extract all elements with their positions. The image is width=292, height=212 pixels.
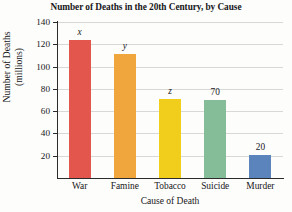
y-tick-mark xyxy=(53,156,58,157)
x-axis-title: Cause of Death xyxy=(57,196,283,206)
y-tick-label: 140 xyxy=(24,17,50,27)
y-axis-tick-labels: 14012010080604020 xyxy=(22,0,50,212)
x-tick-label-murder: Murder xyxy=(229,181,291,191)
y-tick-mark xyxy=(53,44,58,45)
gridline xyxy=(57,44,283,45)
gridline xyxy=(57,22,283,23)
bar-murder[interactable] xyxy=(249,155,271,178)
bar-famine[interactable] xyxy=(114,54,136,178)
x-axis-tick-labels: WarFamineTobaccoSuicideMurder xyxy=(57,181,283,197)
y-axis-title-line-1: Number of Deaths xyxy=(1,7,13,127)
y-tick-mark xyxy=(53,67,58,68)
bar-tobacco[interactable] xyxy=(159,99,181,178)
y-tick-mark xyxy=(53,22,58,23)
bar-value-label-murder: 20 xyxy=(230,142,290,152)
y-tick-label: 80 xyxy=(24,84,50,94)
x-axis-line xyxy=(57,178,284,179)
bar-suicide[interactable] xyxy=(204,100,226,178)
bar-value-label-suicide: 70 xyxy=(185,87,245,97)
bar-chart-figure: Number of Deaths in the 20th Century, by… xyxy=(0,0,292,212)
plot-area: xyz7020 xyxy=(57,22,283,178)
y-tick-label: 40 xyxy=(24,128,50,138)
gridline xyxy=(57,67,283,68)
y-tick-mark xyxy=(53,111,58,112)
y-tick-label: 60 xyxy=(24,106,50,116)
y-tick-label: 120 xyxy=(24,39,50,49)
bar-value-label-famine: y xyxy=(95,41,155,51)
y-tick-label: 100 xyxy=(24,62,50,72)
y-tick-mark xyxy=(53,133,58,134)
y-tick-mark xyxy=(53,89,58,90)
bar-war[interactable] xyxy=(69,40,91,178)
bar-value-label-war: x xyxy=(50,27,110,37)
y-tick-label: 20 xyxy=(24,151,50,161)
